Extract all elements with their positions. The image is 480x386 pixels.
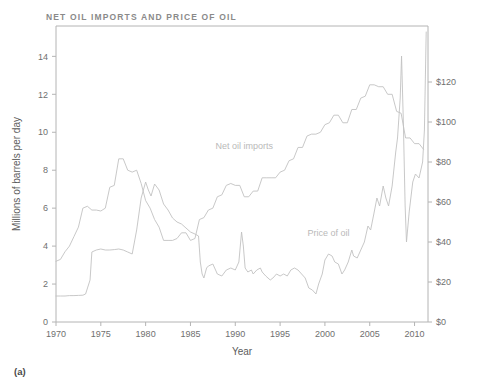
- series-line-net-oil-imports: [56, 85, 424, 261]
- chart-series: [56, 32, 426, 296]
- y-tick-label: 2: [43, 279, 48, 289]
- x-tick-label: 1970: [46, 329, 66, 339]
- x-tick-label: 1975: [91, 329, 111, 339]
- x-axis-title: Year: [232, 346, 253, 357]
- x-tick-label: 1985: [180, 329, 200, 339]
- figure-panel: NET OIL IMPORTS AND PRICE OF OIL 0246810…: [0, 0, 480, 386]
- y-tick-label: 6: [43, 203, 48, 213]
- y-tick-label: 10: [38, 127, 48, 137]
- x-tick-label: 1980: [136, 329, 156, 339]
- plot-frame: [56, 26, 428, 322]
- y-tick-label: 0: [43, 317, 48, 327]
- y2-tick-label: $100: [436, 117, 456, 127]
- y-tick-label: 4: [43, 241, 48, 251]
- y-tick-label: 8: [43, 165, 48, 175]
- chart-axes: 02468101214$0$20$40$60$80$100$1201970197…: [38, 26, 456, 339]
- x-tick-label: 1995: [270, 329, 290, 339]
- x-tick-label: 2000: [315, 329, 335, 339]
- oil-imports-price-chart: 02468101214$0$20$40$60$80$100$1201970197…: [0, 0, 480, 360]
- y2-tick-label: $40: [436, 237, 451, 247]
- y-tick-label: 12: [38, 90, 48, 100]
- y2-tick-label: $0: [436, 317, 446, 327]
- y2-tick-label: $80: [436, 157, 451, 167]
- series-annotation: Price of oil: [307, 228, 349, 238]
- panel-label: (a): [14, 366, 26, 377]
- x-tick-label: 2010: [405, 329, 425, 339]
- y-tick-label: 14: [38, 52, 48, 62]
- y2-tick-label: $20: [436, 277, 451, 287]
- x-tick-label: 1990: [225, 329, 245, 339]
- y-axis-title: Millions of barrels per day: [11, 117, 22, 231]
- chart-labels: YearMillions of barrels per dayNet oil i…: [11, 117, 350, 357]
- y2-tick-label: $60: [436, 197, 451, 207]
- series-annotation: Net oil imports: [215, 141, 273, 151]
- series-line-price-of-oil: [56, 32, 426, 296]
- page-title: NET OIL IMPORTS AND PRICE OF OIL: [46, 12, 237, 22]
- y2-tick-label: $120: [436, 77, 456, 87]
- x-tick-label: 2005: [360, 329, 380, 339]
